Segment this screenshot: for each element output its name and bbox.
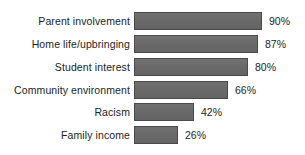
bar-group: 66% (134, 81, 256, 99)
bar-group: 87% (134, 35, 286, 53)
value-label: 87% (265, 38, 286, 50)
category-label: Family income (0, 129, 130, 141)
value-label: 80% (255, 61, 276, 73)
chart-row: Family income 26% (0, 124, 305, 146)
category-label: Racism (0, 106, 130, 118)
bar (134, 58, 248, 76)
category-label: Student interest (0, 61, 130, 73)
bar (134, 81, 228, 99)
chart-row: Racism 42% (0, 101, 305, 123)
chart-row: Parent involvement 90% (0, 10, 305, 32)
bar (134, 35, 258, 53)
value-label: 42% (201, 106, 222, 118)
horizontal-bar-chart: Parent involvement 90% Home life/upbring… (0, 0, 305, 155)
bar-group: 26% (134, 126, 206, 144)
value-label: 66% (235, 84, 256, 96)
bar (134, 126, 178, 144)
chart-row: Home life/upbringing 87% (0, 33, 305, 55)
bar-group: 80% (134, 58, 276, 76)
chart-row: Student interest 80% (0, 56, 305, 78)
bar-group: 42% (134, 103, 222, 121)
chart-row: Community environment 66% (0, 79, 305, 101)
category-label: Home life/upbringing (0, 38, 130, 50)
bar (134, 12, 262, 30)
value-label: 90% (269, 15, 290, 27)
value-label: 26% (185, 129, 206, 141)
category-label: Parent involvement (0, 15, 130, 27)
category-label: Community environment (0, 84, 130, 96)
bar-group: 90% (134, 12, 290, 30)
bar (134, 103, 194, 121)
